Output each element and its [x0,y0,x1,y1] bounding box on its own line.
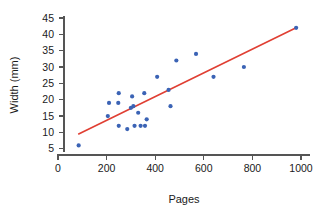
data-point [136,111,140,115]
y-tick-label: 20 [42,93,54,105]
x-axis-ticks: 02004006008001000 [55,155,313,174]
data-point [130,94,134,98]
data-point [116,101,120,105]
data-point [242,65,246,69]
y-tick-label: 10 [42,126,54,138]
x-tick-label: 800 [244,162,262,174]
x-tick-label: 200 [98,162,116,174]
y-tick-label: 5 [48,142,54,154]
y-tick-label: 15 [42,110,54,122]
data-point [166,88,170,92]
x-axis-title: Pages [168,193,200,205]
data-series [77,26,299,148]
data-point [294,26,298,30]
data-point [194,52,198,56]
data-point [132,124,136,128]
y-tick-label: 40 [42,28,54,40]
y-tick-label: 45 [42,12,54,24]
scatter-plot-figure: 51015202530354045 02004006008001000 Page… [0,0,324,209]
y-tick-label: 25 [42,77,54,89]
y-axis-title: Width (mm) [8,57,20,114]
data-point [125,127,129,131]
data-point [143,124,147,128]
plot-canvas: 51015202530354045 02004006008001000 Page… [0,0,324,209]
x-tick-label: 0 [55,162,61,174]
trend-line [79,28,296,134]
data-point [142,91,146,95]
data-point [174,58,178,62]
data-point [211,75,215,79]
y-tick-label: 30 [42,61,54,73]
data-point [107,101,111,105]
y-axis-ticks: 51015202530354045 [42,12,64,155]
y-tick-label: 35 [42,44,54,56]
data-point [117,124,121,128]
x-tick-label: 400 [146,162,164,174]
data-point [106,114,110,118]
data-point [77,143,81,147]
data-point [131,104,135,108]
data-point [117,91,121,95]
x-tick-label: 1000 [289,162,313,174]
data-point [168,104,172,108]
data-point [155,75,159,79]
x-tick-label: 600 [195,162,213,174]
data-point [145,117,149,121]
data-point [139,124,143,128]
